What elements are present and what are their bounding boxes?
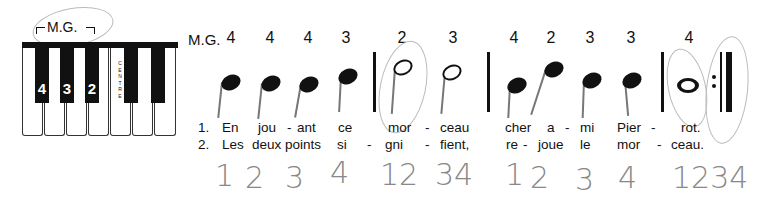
bracket-left bbox=[36, 27, 45, 34]
lyric-syllable: ant bbox=[297, 120, 316, 135]
fingering: 4 bbox=[679, 29, 699, 47]
lyric-syllable: deux points bbox=[252, 137, 321, 152]
quarter-note bbox=[219, 71, 243, 93]
handwritten-count: 1 bbox=[215, 158, 234, 193]
lyric-syllable: Les bbox=[222, 137, 244, 152]
fingering: 3 bbox=[580, 29, 600, 47]
lyric-syllable: re bbox=[506, 137, 518, 152]
lyric-syllable: fient, bbox=[440, 137, 469, 152]
quarter-note bbox=[542, 58, 566, 80]
verse-number: 1. bbox=[198, 120, 209, 135]
handwritten-count: 12 bbox=[380, 157, 418, 192]
note-stem bbox=[530, 69, 546, 115]
verse-number: 2. bbox=[198, 137, 209, 152]
fingering: 3 bbox=[621, 29, 641, 47]
black-key-finger-3: 3 bbox=[60, 47, 74, 103]
quarter-note bbox=[259, 72, 283, 94]
lyric-hyphen: - bbox=[425, 137, 430, 152]
handwritten-count: 3 bbox=[285, 160, 304, 195]
fingering: 3 bbox=[443, 29, 463, 47]
black-key bbox=[151, 47, 165, 103]
piano-keyboard-diagram: 4 3 2 CENTRE bbox=[22, 42, 178, 137]
score-hand-label: M.G. bbox=[188, 31, 221, 48]
lyric-syllable: ceau. bbox=[671, 137, 704, 152]
handwritten-count: 1 bbox=[505, 157, 524, 192]
lyric-syllable: ce bbox=[338, 120, 352, 135]
black-key-finger-4: 4 bbox=[35, 47, 49, 103]
quarter-note bbox=[297, 73, 321, 95]
lyric-syllable: mor bbox=[617, 137, 640, 152]
handwritten-count: 2 bbox=[245, 160, 264, 195]
lyric-hyphen: - bbox=[651, 120, 656, 135]
fingering: 4 bbox=[504, 29, 524, 47]
lyric-syllable: rot. bbox=[681, 120, 701, 135]
bracket-right bbox=[86, 27, 95, 34]
lyric-hyphen: - bbox=[287, 120, 292, 135]
centre-label: CENTRE bbox=[116, 60, 124, 99]
lyric-syllable: le bbox=[580, 137, 591, 152]
handwritten-count: 2 bbox=[530, 160, 549, 195]
handwritten-count: 4 bbox=[330, 155, 349, 190]
lyric-syllable: cher bbox=[505, 120, 531, 135]
lyric-hyphen: - bbox=[657, 137, 662, 152]
lyric-syllable: En bbox=[222, 120, 239, 135]
lyric-syllable: ceau bbox=[440, 120, 469, 135]
lyric-hyphen: - bbox=[523, 137, 528, 152]
lyric-syllable: a bbox=[547, 120, 555, 135]
handwritten-count: 1234 bbox=[672, 160, 748, 195]
pencil-circle-mark bbox=[700, 34, 753, 146]
left-hand-label: M.G. bbox=[47, 19, 77, 35]
barline bbox=[487, 52, 490, 112]
black-key bbox=[124, 47, 138, 103]
whole-note bbox=[677, 78, 699, 93]
lyric-hyphen: - bbox=[565, 120, 570, 135]
lyric-syllable: jou bbox=[258, 120, 276, 135]
barline bbox=[373, 52, 376, 112]
lyric-syllable: joue bbox=[538, 137, 564, 152]
fingering: 3 bbox=[336, 29, 356, 47]
lyric-hyphen: - bbox=[425, 120, 430, 135]
fingering: 4 bbox=[260, 29, 280, 47]
lyric-syllable: gni bbox=[385, 137, 403, 152]
fingering: 4 bbox=[221, 29, 241, 47]
lyric-syllable: mi bbox=[580, 120, 594, 135]
handwritten-count: 34 bbox=[435, 157, 473, 192]
lyric-hyphen: - bbox=[367, 137, 372, 152]
quarter-note bbox=[620, 69, 644, 91]
fingering: 4 bbox=[298, 29, 318, 47]
handwritten-count: 3 bbox=[575, 162, 594, 197]
handwritten-count: 4 bbox=[618, 160, 637, 195]
barline bbox=[661, 52, 664, 112]
lyric-syllable: mor bbox=[388, 120, 411, 135]
lyric-syllable: Pier bbox=[617, 120, 641, 135]
black-key-finger-2: 2 bbox=[85, 47, 99, 103]
lyric-syllable: si bbox=[337, 137, 347, 152]
fingering: 2 bbox=[541, 29, 561, 47]
